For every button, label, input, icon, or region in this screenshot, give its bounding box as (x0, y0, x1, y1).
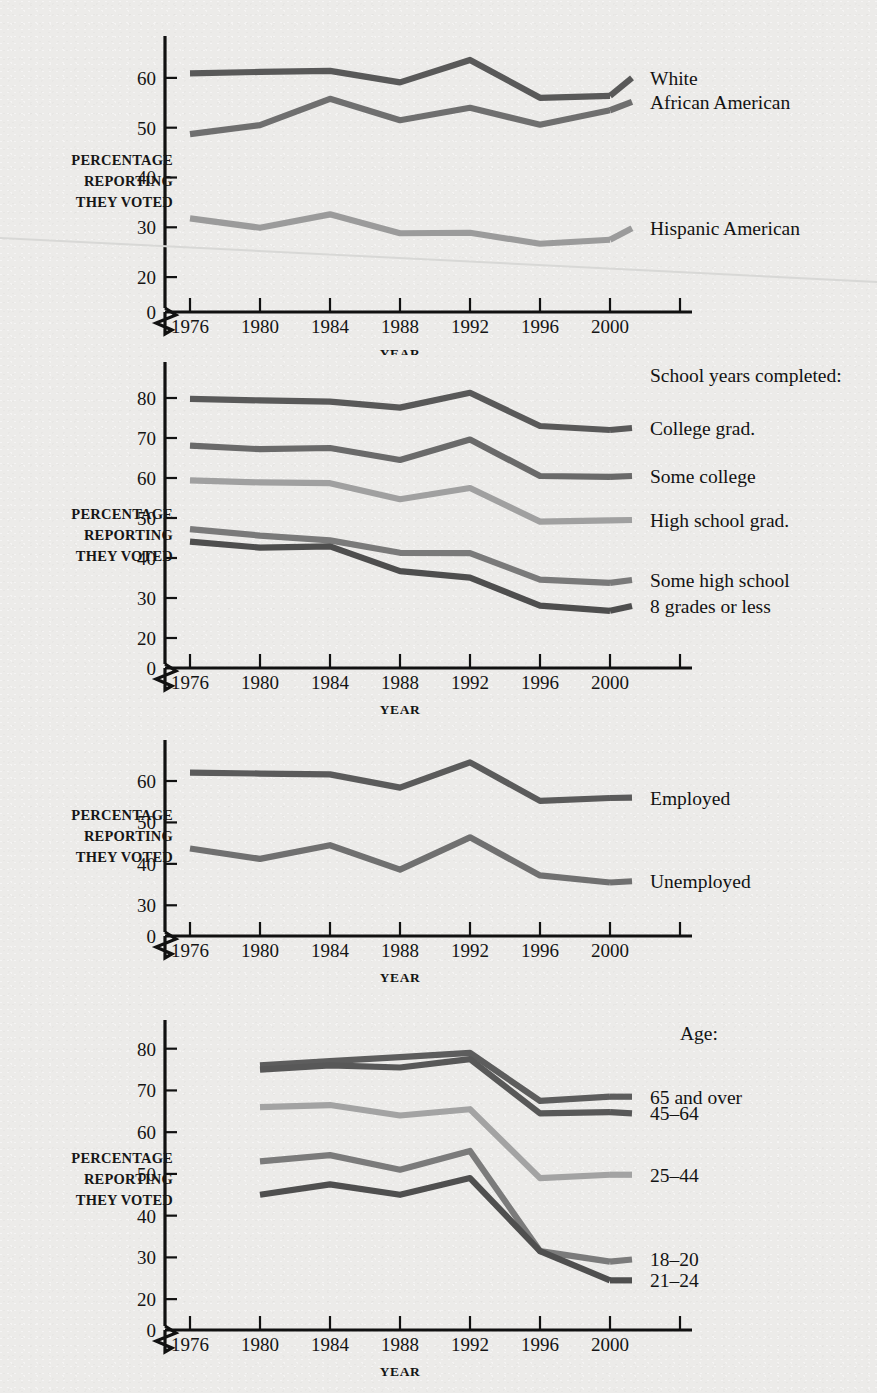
x-axis-tick-label: 2000 (591, 940, 629, 961)
x-axis-tick-label: 2000 (591, 672, 629, 693)
x-axis-tick-label: 2000 (591, 316, 629, 337)
series-label: High school grad. (650, 510, 789, 531)
y-axis-tick-label: 50 (137, 118, 156, 139)
x-axis-tick-label: 1980 (241, 316, 279, 337)
series-label: Unemployed (650, 871, 751, 892)
series-label: Some high school (650, 570, 790, 591)
x-axis-tick-label: 1976 (171, 672, 209, 693)
series-label: White (650, 68, 698, 89)
y-axis-tick-label: 20 (137, 267, 156, 288)
series-label: African American (650, 92, 790, 113)
series-leader-line (610, 476, 632, 477)
y-axis-title-line: REPORTING (28, 826, 173, 847)
series-line (260, 1053, 610, 1101)
x-axis-tick-label: 1984 (311, 672, 350, 693)
y-axis-title-line: PERCENTAGE (28, 504, 173, 525)
legend-title: Age: (680, 1023, 718, 1044)
series-line (190, 440, 610, 477)
y-axis-title-line: PERCENTAGE (28, 805, 173, 826)
x-axis-tick-label: 1976 (171, 316, 209, 337)
y-axis-title-line: REPORTING (28, 525, 173, 546)
x-axis-title: YEAR (380, 702, 421, 717)
series-line (190, 837, 610, 882)
y-axis-zero-label: 0 (147, 302, 157, 323)
y-axis-tick-label: 60 (137, 771, 156, 792)
y-axis-tick-label: 20 (137, 628, 156, 649)
series-label: 21–24 (650, 1270, 699, 1291)
series-leader-line (610, 1112, 632, 1113)
y-axis-tick-label: 60 (137, 1122, 156, 1143)
x-axis-tick-label: 1992 (451, 940, 489, 961)
x-axis-tick-label: 1992 (451, 672, 489, 693)
x-axis-tick-label: 1984 (311, 940, 350, 961)
series-line (190, 60, 610, 98)
y-axis-title-chart-4: PERCENTAGEREPORTINGTHEY VOTED (28, 1148, 173, 1211)
y-axis-title-line: THEY VOTED (28, 847, 173, 868)
y-axis-title-chart-3: PERCENTAGEREPORTINGTHEY VOTED (28, 805, 173, 868)
x-axis-title: YEAR (380, 346, 421, 355)
y-axis-title-chart-1: PERCENTAGEREPORTINGTHEY VOTED (28, 150, 173, 213)
series-leader-line (610, 580, 632, 583)
y-axis-zero-label: 0 (147, 658, 157, 679)
x-axis-tick-label: 1988 (381, 1334, 419, 1355)
series-label: 25–44 (650, 1165, 699, 1186)
y-axis-tick-label: 30 (137, 588, 156, 609)
x-axis-tick-label: 2000 (591, 1334, 629, 1355)
x-axis-tick-label: 1984 (311, 316, 350, 337)
x-axis-tick-label: 1992 (451, 1334, 489, 1355)
x-axis-tick-label: 1996 (521, 672, 559, 693)
series-leader-line (610, 1259, 632, 1261)
series-line (190, 214, 610, 243)
y-axis-tick-label: 30 (137, 895, 156, 916)
x-axis-tick-label: 1996 (521, 940, 559, 961)
x-axis-tick-label: 1984 (311, 1334, 350, 1355)
y-axis-tick-label: 60 (137, 468, 156, 489)
legend-title: School years completed: (650, 365, 842, 386)
x-axis-tick-label: 1980 (241, 1334, 279, 1355)
series-label: 45–64 (650, 1103, 699, 1124)
series-line (190, 762, 610, 801)
series-label: 8 grades or less (650, 596, 771, 617)
y-axis-title-line: THEY VOTED (28, 546, 173, 567)
x-axis-tick-label: 1988 (381, 316, 419, 337)
y-axis-title-line: PERCENTAGE (28, 1148, 173, 1169)
y-axis-zero-label: 0 (147, 926, 157, 947)
y-axis-tick-label: 80 (137, 1039, 156, 1060)
series-label: 18–20 (650, 1249, 699, 1270)
x-axis-tick-label: 1988 (381, 672, 419, 693)
series-line (190, 529, 610, 583)
y-axis-tick-label: 60 (137, 68, 156, 89)
series-label: Some college (650, 466, 756, 487)
series-leader-line (610, 881, 632, 882)
series-line (260, 1178, 610, 1280)
figure-page: 203040506001976198019841988199219962000Y… (0, 0, 877, 1393)
series-line (190, 480, 610, 521)
series-leader-line (610, 102, 632, 110)
y-axis-title-line: PERCENTAGE (28, 150, 173, 171)
y-axis-title-line: THEY VOTED (28, 192, 173, 213)
series-line (190, 393, 610, 430)
x-axis-tick-label: 1980 (241, 672, 279, 693)
y-axis-tick-label: 70 (137, 428, 156, 449)
series-label: College grad. (650, 418, 755, 439)
series-leader-line (610, 228, 632, 239)
y-axis-zero-label: 0 (147, 1320, 157, 1341)
y-axis-tick-label: 30 (137, 1247, 156, 1268)
y-axis-tick-label: 30 (137, 217, 156, 238)
x-axis-title: YEAR (380, 970, 421, 985)
series-label: Employed (650, 788, 730, 809)
x-axis-tick-label: 1980 (241, 940, 279, 961)
x-axis-tick-label: 1996 (521, 1334, 559, 1355)
x-axis-tick-label: 1976 (171, 1334, 209, 1355)
y-axis-tick-label: 70 (137, 1080, 156, 1101)
x-axis-tick-label: 1976 (171, 940, 209, 961)
series-leader-line (610, 78, 632, 96)
y-axis-title-chart-2: PERCENTAGEREPORTINGTHEY VOTED (28, 504, 173, 567)
y-axis-title-line: REPORTING (28, 171, 173, 192)
series-line (260, 1151, 610, 1262)
x-axis-tick-label: 1992 (451, 316, 489, 337)
x-axis-tick-label: 1996 (521, 316, 559, 337)
series-label: Hispanic American (650, 218, 800, 239)
x-axis-tick-label: 1988 (381, 940, 419, 961)
x-axis-title: YEAR (380, 1364, 421, 1379)
